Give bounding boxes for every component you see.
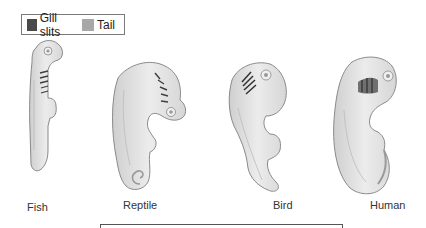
embryo-illustrations [0, 0, 426, 228]
fish-embryo-icon [30, 41, 63, 171]
label-fish: Fish [27, 201, 48, 213]
reptile-embryo-icon [113, 62, 186, 189]
bird-embryo-icon [229, 63, 286, 192]
label-bird: Bird [273, 199, 293, 211]
label-human: Human [370, 199, 405, 211]
human-embryo-icon [334, 57, 397, 194]
grouping-bracket [100, 224, 343, 228]
label-reptile: Reptile [123, 199, 157, 211]
